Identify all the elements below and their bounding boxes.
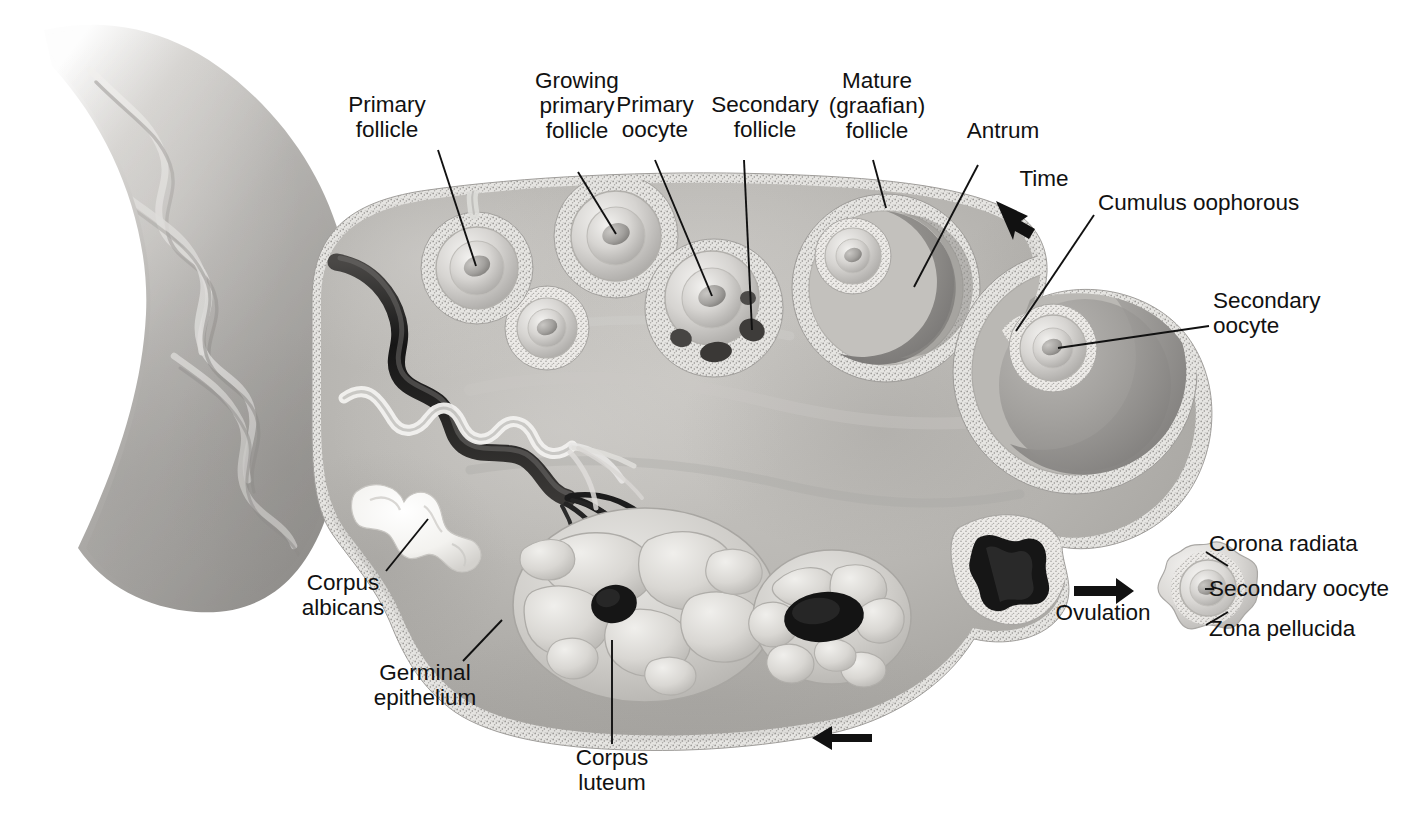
label-cumulus-oophorous: Cumulus oophorous: [1098, 190, 1348, 215]
label-primary-follicle: Primary follicle: [332, 92, 442, 142]
label-secondary-follicle: Secondary follicle: [700, 92, 830, 142]
label-corona-radiata: Corona radiata: [1209, 531, 1409, 556]
label-secondary-oocyte-follicle: Secondary oocyte: [1213, 288, 1373, 338]
label-zona-pellucida: Zona pellucida: [1209, 616, 1409, 641]
label-mature-graafian-follicle: Mature (graafian) follicle: [812, 68, 942, 143]
secondary-follicle: [645, 239, 783, 377]
label-antrum: Antrum: [948, 118, 1058, 143]
corpus-luteum-mature: [513, 508, 777, 702]
large-graafian-follicle: [953, 250, 1197, 494]
antral-space: [740, 291, 756, 305]
label-ovulation: Ovulation: [1048, 600, 1158, 625]
mature-graafian-follicle: [792, 194, 980, 382]
label-germinal-epithelium: Germinal epithelium: [355, 660, 495, 710]
label-primary-oocyte: Primary oocyte: [600, 92, 710, 142]
label-corpus-luteum: Corpus luteum: [557, 745, 667, 795]
label-secondary-oocyte-released: Secondary oocyte: [1209, 576, 1409, 601]
figure-canvas: Primary follicle Growing primary follicl…: [0, 0, 1409, 814]
label-corpus-albicans: Corpus albicans: [282, 570, 404, 620]
label-time: Time: [1000, 166, 1088, 191]
